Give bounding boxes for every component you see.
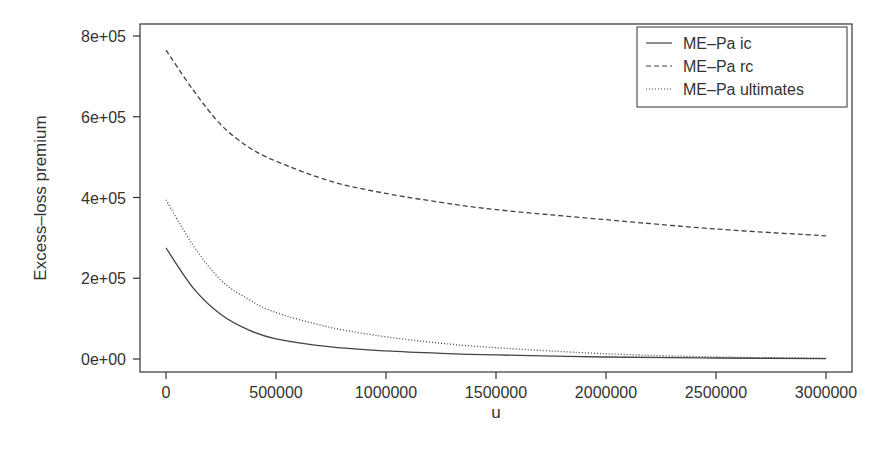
legend-label-ultimates: ME–Pa ultimates — [683, 81, 804, 98]
y-tick-label: 2e+05 — [81, 270, 126, 287]
y-tick-label: 4e+05 — [81, 190, 126, 207]
x-tick-label: 3000000 — [795, 384, 857, 401]
series-line-dotted — [166, 200, 826, 358]
x-axis: 0500000100000015000002000000250000030000… — [162, 372, 858, 401]
y-axis: 0e+002e+054e+056e+058e+05 — [81, 28, 140, 368]
x-tick-label: 2500000 — [685, 384, 747, 401]
x-tick-label: 2000000 — [575, 384, 637, 401]
x-tick-label: 1000000 — [355, 384, 417, 401]
x-tick-label: 1500000 — [465, 384, 527, 401]
chart: 0500000100000015000002000000250000030000… — [0, 0, 894, 457]
x-tick-label: 0 — [162, 384, 171, 401]
legend-label-ic: ME–Pa ic — [683, 35, 751, 52]
series-line-solid — [166, 248, 826, 359]
y-tick-label: 6e+05 — [81, 109, 126, 126]
y-axis-label: Excess–loss premium — [31, 115, 50, 280]
legend: ME–Pa ic ME–Pa rc ME–Pa ultimates — [637, 27, 847, 107]
y-tick-label: 8e+05 — [81, 28, 126, 45]
y-tick-label: 0e+00 — [81, 351, 126, 368]
x-tick-label: 500000 — [249, 384, 302, 401]
legend-label-rc: ME–Pa rc — [683, 58, 753, 75]
x-axis-label: u — [491, 403, 500, 422]
